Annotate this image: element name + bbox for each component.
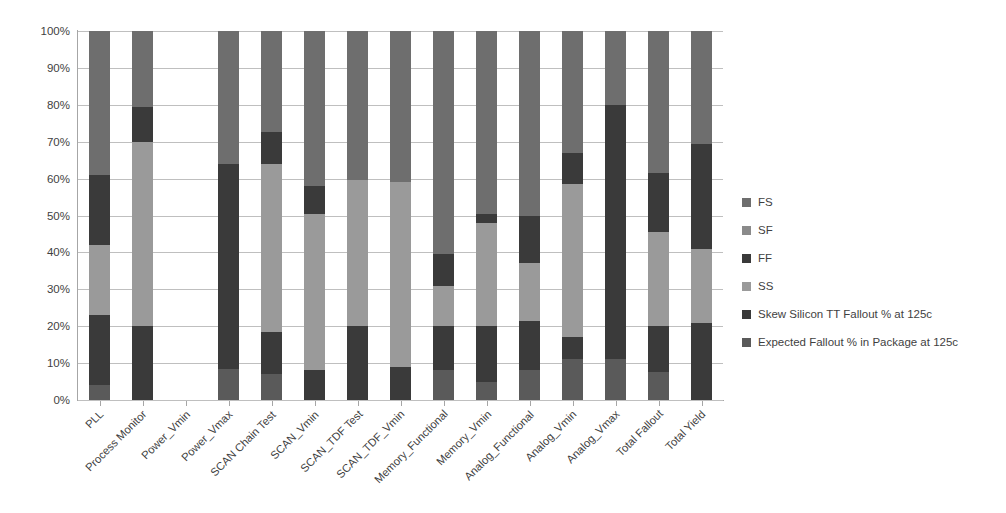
bar-column[interactable] xyxy=(390,31,411,400)
bar-segment[interactable] xyxy=(648,173,669,232)
bar-column[interactable] xyxy=(218,31,239,400)
bar-segment[interactable] xyxy=(132,142,153,327)
bar-segment[interactable] xyxy=(132,31,153,107)
bar-segment[interactable] xyxy=(648,326,669,372)
bar-segment[interactable] xyxy=(218,326,239,368)
x-axis-tick-mark xyxy=(315,401,316,406)
bar-segment[interactable] xyxy=(476,382,497,400)
x-axis-category-label: Memory_Functional xyxy=(372,408,450,486)
bar-column[interactable] xyxy=(476,31,497,400)
bar-segment[interactable] xyxy=(89,175,110,245)
bar-segment[interactable] xyxy=(519,321,540,371)
bar-column[interactable] xyxy=(691,31,712,400)
x-axis-tick-mark xyxy=(272,401,273,406)
bar-segment[interactable] xyxy=(691,31,712,144)
bar-segment[interactable] xyxy=(562,31,583,153)
bar-segment[interactable] xyxy=(304,214,325,371)
bar-segment[interactable] xyxy=(390,31,411,182)
bar-segment[interactable] xyxy=(390,367,411,400)
bar-segment[interactable] xyxy=(433,286,454,327)
bar-segment[interactable] xyxy=(304,186,325,214)
legend-label: FF xyxy=(758,252,772,264)
bar-column[interactable] xyxy=(605,31,626,400)
legend-item[interactable]: Expected Fallout % in Package at 125c xyxy=(742,330,1000,354)
bar-segment[interactable] xyxy=(261,31,282,132)
bar-column[interactable] xyxy=(562,31,583,400)
bar-segment[interactable] xyxy=(304,31,325,186)
bar-segment[interactable] xyxy=(218,164,239,326)
legend-item[interactable]: SS xyxy=(742,274,1000,298)
bar-segment[interactable] xyxy=(132,326,153,400)
bar-segment[interactable] xyxy=(562,337,583,359)
bar-segment[interactable] xyxy=(89,31,110,175)
legend-item[interactable]: SF xyxy=(742,218,1000,242)
x-axis-tick-mark xyxy=(186,401,187,406)
bar-segment[interactable] xyxy=(261,374,282,400)
bar-segment[interactable] xyxy=(519,216,540,264)
legend-item[interactable]: FF xyxy=(742,246,1000,270)
bar-segment[interactable] xyxy=(261,332,282,374)
bar-stack xyxy=(562,31,583,400)
bar-segment[interactable] xyxy=(261,164,282,332)
bar-segment[interactable] xyxy=(390,182,411,367)
bar-segment[interactable] xyxy=(562,359,583,400)
bar-segment[interactable] xyxy=(304,370,325,400)
bar-segment[interactable] xyxy=(476,326,497,381)
bar-column[interactable] xyxy=(261,31,282,400)
bar-segment[interactable] xyxy=(218,31,239,164)
bar-segment[interactable] xyxy=(648,372,669,400)
bar-segment[interactable] xyxy=(605,326,626,359)
bar-column[interactable] xyxy=(648,31,669,400)
bar-column[interactable] xyxy=(304,31,325,400)
bar-segment[interactable] xyxy=(605,31,626,105)
bar-segment[interactable] xyxy=(476,214,497,223)
bar-column[interactable] xyxy=(519,31,540,400)
bar-segment[interactable] xyxy=(605,105,626,326)
bar-segment[interactable] xyxy=(605,359,626,400)
legend-item[interactable]: Skew Silicon TT Fallout % at 125c xyxy=(742,302,1000,326)
legend-item[interactable]: FS xyxy=(742,190,1000,214)
bar-segment[interactable] xyxy=(261,132,282,163)
bar-segment[interactable] xyxy=(433,326,454,370)
bar-segment[interactable] xyxy=(476,223,497,326)
bar-segment[interactable] xyxy=(648,31,669,173)
bar-segment[interactable] xyxy=(562,153,583,184)
bar-stack xyxy=(175,31,196,400)
y-axis-tick-label: 100% xyxy=(41,25,70,37)
bar-column[interactable] xyxy=(433,31,454,400)
bar-segment[interactable] xyxy=(89,245,110,315)
bar-segment[interactable] xyxy=(648,232,669,326)
bar-column[interactable] xyxy=(132,31,153,400)
bar-segment[interactable] xyxy=(89,385,110,400)
bar-segment[interactable] xyxy=(476,31,497,214)
bar-segment[interactable] xyxy=(519,370,540,400)
legend-label: FS xyxy=(758,196,773,208)
bar-segment[interactable] xyxy=(218,369,239,400)
x-axis-tick-mark xyxy=(229,401,230,406)
bar-segment[interactable] xyxy=(691,323,712,400)
bar-segment[interactable] xyxy=(433,370,454,400)
bar-segment[interactable] xyxy=(347,180,368,326)
bar-segment[interactable] xyxy=(519,31,540,216)
bar-column[interactable] xyxy=(89,31,110,400)
x-axis-tick-mark xyxy=(659,401,660,406)
bar-segment[interactable] xyxy=(519,263,540,320)
bar-segment[interactable] xyxy=(132,107,153,142)
x-axis-tick-mark xyxy=(530,401,531,406)
legend-label: Skew Silicon TT Fallout % at 125c xyxy=(758,308,932,320)
bar-segment[interactable] xyxy=(347,326,368,400)
bar-segment[interactable] xyxy=(433,254,454,285)
bar-column[interactable] xyxy=(175,31,196,400)
bar-stack xyxy=(476,31,497,400)
y-axis-tick-label: 70% xyxy=(47,136,70,148)
bar-column[interactable] xyxy=(347,31,368,400)
bar-segment[interactable] xyxy=(562,184,583,337)
bar-segment[interactable] xyxy=(347,31,368,180)
bar-segment[interactable] xyxy=(89,315,110,385)
bar-segment[interactable] xyxy=(691,144,712,249)
bar-stack xyxy=(390,31,411,400)
bar-series-group xyxy=(78,31,723,400)
bar-segment[interactable] xyxy=(433,31,454,254)
bar-segment[interactable] xyxy=(691,249,712,323)
x-axis-tick-mark xyxy=(487,401,488,406)
